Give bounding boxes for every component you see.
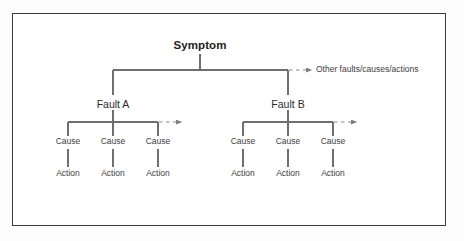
node-fault-a-action-1: Action	[56, 169, 80, 178]
fault-tree-connectors	[0, 0, 464, 241]
annotation-other-faults: Other faults/causes/actions	[316, 65, 419, 74]
node-fault-a: Fault A	[97, 99, 130, 110]
node-symptom: Symptom	[173, 40, 226, 52]
node-fault-a-cause-2: Cause	[101, 137, 126, 146]
node-fault-a-action-2: Action	[101, 169, 125, 178]
node-fault-b-cause-3: Cause	[321, 137, 346, 146]
node-fault-a-action-3: Action	[146, 169, 170, 178]
node-fault-b-action-2: Action	[276, 169, 300, 178]
node-fault-a-cause-1: Cause	[56, 137, 81, 146]
node-fault-b-action-3: Action	[321, 169, 345, 178]
node-fault-b-action-1: Action	[231, 169, 255, 178]
node-fault-b-cause-1: Cause	[231, 137, 256, 146]
node-fault-b-cause-2: Cause	[276, 137, 301, 146]
node-fault-b: Fault B	[271, 99, 304, 110]
screenshot-page: Symptom Other faults/causes/actions Faul…	[0, 0, 464, 241]
node-fault-a-cause-3: Cause	[146, 137, 171, 146]
